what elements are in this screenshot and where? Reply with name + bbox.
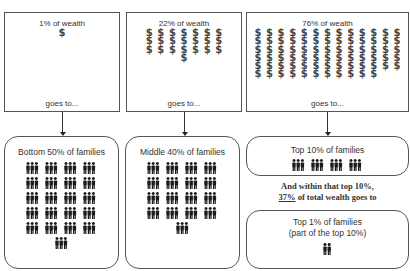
family-group-icon bbox=[43, 175, 62, 190]
dollar-icon: $ bbox=[252, 70, 264, 78]
family-group-icon bbox=[173, 220, 192, 235]
dollar-icon: $ bbox=[368, 70, 380, 78]
arrow-down-icon bbox=[62, 112, 63, 135]
family-icon-grid bbox=[247, 157, 408, 172]
family-box-middle-40: Middle 40% of families bbox=[125, 136, 240, 269]
dollar-icon: $ bbox=[190, 46, 202, 54]
dollar-grid: $ bbox=[5, 29, 119, 37]
family-group-icon bbox=[24, 175, 43, 190]
wealth-box-76pct: 76% of wealth $$$$$$$$$$$$$$$$$$$$$$$$$$… bbox=[246, 12, 409, 112]
family-group-icon bbox=[202, 190, 221, 205]
family-group-icon bbox=[81, 190, 100, 205]
goes-to-label: goes to... bbox=[247, 99, 408, 108]
family-group-icon bbox=[24, 190, 43, 205]
goes-to-label: goes to... bbox=[5, 99, 119, 108]
dollar-icon: $ bbox=[213, 46, 225, 54]
dollar-icon: $ bbox=[356, 70, 368, 78]
family-group-icon bbox=[62, 175, 81, 190]
dollar-icon: $ bbox=[155, 46, 167, 54]
family-label: Top 1% of families bbox=[247, 217, 408, 227]
family-box-top-10: Top 10% of families bbox=[246, 136, 409, 176]
family-sublabel: (part of the top 10%) bbox=[247, 228, 408, 238]
family-group-icon bbox=[81, 205, 100, 220]
connector-line-1: And within that top 10%, bbox=[246, 181, 409, 192]
dollar-icon: $ bbox=[287, 70, 299, 78]
family-group-icon bbox=[62, 160, 81, 175]
dollar-icon: $ bbox=[201, 46, 213, 54]
family-group-icon bbox=[24, 205, 43, 220]
family-group-icon bbox=[183, 190, 202, 205]
family-group-icon bbox=[164, 205, 183, 220]
family-group-icon bbox=[145, 190, 164, 205]
family-icon-grid bbox=[247, 241, 408, 256]
family-group-icon bbox=[62, 205, 81, 220]
dollar-icon: $ bbox=[322, 70, 334, 78]
dollar-icon: $ bbox=[391, 62, 403, 70]
family-group-icon bbox=[24, 160, 43, 175]
arrow-down-icon bbox=[327, 112, 328, 135]
top1-wealth-percent: 37% bbox=[279, 192, 296, 202]
family-label: Bottom 50% of families bbox=[5, 147, 118, 157]
family-group-icon bbox=[81, 160, 100, 175]
family-group-icon bbox=[202, 205, 221, 220]
family-box-top-1: Top 1% of families (part of the top 10%) bbox=[246, 210, 409, 269]
wealth-box-22pct: 22% of wealth $$$$$$$$$$$$$$$$$$$$$$ goe… bbox=[126, 12, 242, 112]
connector-text: And within that top 10%, 37% of total we… bbox=[246, 181, 409, 203]
family-group-icon bbox=[52, 235, 71, 250]
family-group-icon bbox=[145, 205, 164, 220]
family-group-icon bbox=[145, 175, 164, 190]
family-group-icon bbox=[183, 205, 202, 220]
family-group-icon bbox=[62, 220, 81, 235]
dollar-icon: $ bbox=[167, 46, 179, 54]
dollar-icon: $ bbox=[345, 70, 357, 78]
family-group-icon bbox=[183, 175, 202, 190]
family-group-icon bbox=[164, 160, 183, 175]
family-group-icon bbox=[183, 160, 202, 175]
family-group-icon bbox=[328, 157, 347, 172]
family-group-icon bbox=[24, 220, 43, 235]
family-label: Top 10% of families bbox=[247, 145, 408, 155]
family-group-icon bbox=[43, 190, 62, 205]
dollar-icon: $ bbox=[298, 70, 310, 78]
dollar-grid: $$$$$$$$$$$$$$$$$$$$$$ bbox=[127, 29, 241, 62]
family-icon-grid bbox=[126, 160, 239, 235]
dollar-icon: $ bbox=[178, 54, 190, 62]
dollar-icon: $ bbox=[310, 70, 322, 78]
family-group-icon bbox=[309, 157, 328, 172]
family-group-icon bbox=[347, 157, 366, 172]
family-group-icon bbox=[290, 157, 309, 172]
dollar-icon: $ bbox=[380, 62, 392, 70]
dollar-icon: $ bbox=[264, 70, 276, 78]
family-group-icon bbox=[145, 160, 164, 175]
family-group-icon bbox=[43, 220, 62, 235]
dollar-grid: $$$$$$$$$$$$$$$$$$$$$$$$$$$$$$$$$$$$$$$$… bbox=[247, 29, 408, 79]
arrow-down-icon bbox=[184, 112, 185, 135]
family-label: Middle 40% of families bbox=[126, 147, 239, 157]
dollar-icon: $ bbox=[275, 70, 287, 78]
family-box-bottom-50: Bottom 50% of families bbox=[4, 136, 119, 269]
family-group-icon bbox=[164, 190, 183, 205]
connector-line-2: 37% of total wealth goes to bbox=[246, 192, 409, 203]
family-group-icon bbox=[202, 175, 221, 190]
goes-to-label: goes to... bbox=[127, 99, 241, 108]
dollar-icon: $ bbox=[56, 29, 68, 37]
family-group-icon bbox=[43, 160, 62, 175]
dollar-icon: $ bbox=[333, 70, 345, 78]
dollar-icon: $ bbox=[143, 46, 155, 54]
connector-line-2-rest: of total wealth goes to bbox=[296, 192, 377, 202]
family-icon-grid bbox=[5, 160, 118, 250]
family-group-icon bbox=[43, 205, 62, 220]
family-group-icon bbox=[81, 175, 100, 190]
couple-icon bbox=[318, 241, 337, 256]
wealth-box-1pct: 1% of wealth $ goes to... bbox=[4, 12, 120, 112]
family-group-icon bbox=[81, 220, 100, 235]
family-group-icon bbox=[62, 190, 81, 205]
family-group-icon bbox=[202, 160, 221, 175]
family-group-icon bbox=[164, 175, 183, 190]
